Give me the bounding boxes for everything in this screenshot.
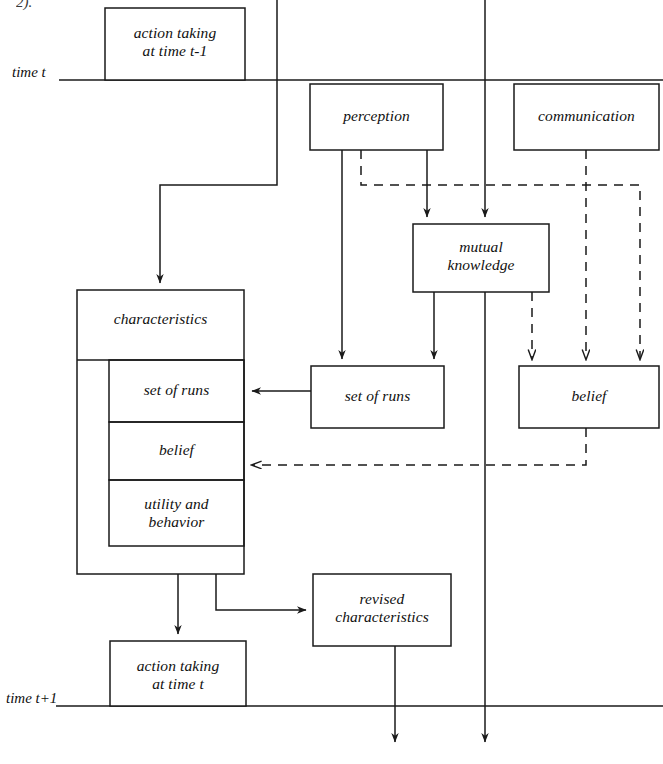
caption-fragment: 2). [16, 0, 32, 11]
box-belief-outer [519, 366, 659, 428]
box-perception [310, 84, 443, 150]
box-action-current [110, 641, 246, 706]
edge-characteristics-to-revised [216, 574, 306, 610]
box-revised-characteristics [313, 574, 451, 646]
box-set-of-runs-outer [311, 366, 444, 428]
box-action-prev [105, 8, 245, 80]
figure-canvas: 2). time t time t+1 action taking at tim… [0, 0, 663, 764]
diagram-vector-layer [0, 0, 663, 764]
box-mutual-knowledge [413, 224, 549, 292]
box-communication [514, 84, 659, 150]
timeline-bottom-label: time t+1 [6, 690, 57, 707]
edge-belief-to-char-belief-dashed [252, 428, 586, 465]
timeline-top-label: time t [12, 64, 46, 81]
box-characteristics-outer [77, 290, 244, 574]
